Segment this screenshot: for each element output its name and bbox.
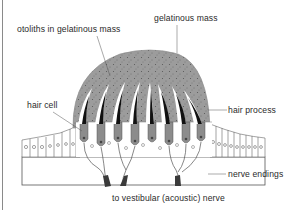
label-hair-cell: hair cell (27, 101, 58, 110)
label-gelatinous-mass: gelatinous mass (154, 14, 218, 23)
label-hair-process: hair process (228, 106, 276, 115)
supporting-cells-right (210, 124, 265, 157)
gelatinous-mass (73, 50, 210, 128)
label-nerve-endings: nerve endings (228, 170, 283, 179)
sensory-epithelium (76, 122, 212, 157)
label-nerve: to vestibular (acoustic) nerve (112, 194, 225, 203)
label-otoliths: otoliths in gelatinous mass (17, 25, 121, 34)
supporting-cells-left (22, 124, 80, 157)
